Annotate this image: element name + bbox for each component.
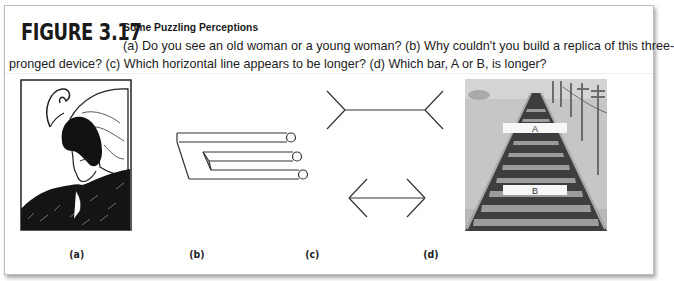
panel-c-image (325, 83, 449, 228)
bar-b-label: B (532, 186, 538, 196)
impossible-trident-illustration (175, 131, 315, 185)
old-young-woman-illustration (20, 79, 132, 231)
panel-label-a: (a) (69, 248, 84, 261)
caption-line-1: (a) Do you see an old woman or a young w… (123, 37, 674, 55)
figure-title: Some Puzzling Perceptions (123, 21, 258, 33)
panel-label-b: (b) (189, 248, 204, 261)
bar-a-label: A (532, 124, 538, 134)
panel-a-image (20, 79, 132, 231)
muller-lyer-illustration (325, 83, 449, 228)
panel-d-image: A B (465, 79, 607, 231)
divider (5, 73, 653, 74)
panel-label-d: (d) (423, 248, 438, 261)
panel-b-image (175, 131, 315, 185)
caption-line-2: pronged device? (c) Which horizontal lin… (9, 55, 547, 73)
ponzo-railroad-illustration: A B (465, 79, 607, 231)
figure-card: FIGURE 3.17 Some Puzzling Perceptions (a… (4, 5, 654, 275)
panel-label-c: (c) (305, 248, 319, 261)
